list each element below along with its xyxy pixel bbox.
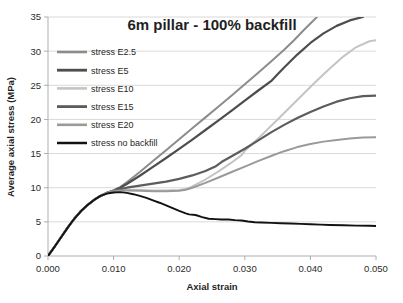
series-line [48,17,317,256]
y-tick-label: 5 [36,216,41,227]
x-tick-label: 0.050 [364,263,388,274]
x-tick-label: 0.020 [167,263,191,274]
series-line [48,137,376,256]
legend-label: stress E5 [91,66,129,76]
x-tick-label: 0.000 [36,263,60,274]
y-tick-label: 35 [30,11,41,22]
y-axis-title: Average axial stress (MPa) [5,77,16,197]
y-tick-label: 20 [30,114,41,125]
y-tick-label: 25 [30,80,41,91]
y-tick-label: 0 [36,250,41,261]
legend-label: stress E2.5 [91,47,136,57]
series-line [48,192,376,256]
y-tick-label: 15 [30,148,41,159]
legend-label: stress no backfill [91,138,158,148]
legend-label: stress E15 [91,102,134,112]
chart-title: 6m pillar - 100% backfill [127,16,296,33]
legend-label: stress E10 [91,84,134,94]
y-tick-label: 10 [30,182,41,193]
x-tick-label: 0.010 [102,263,126,274]
legend-label: stress E20 [91,120,134,130]
legend: stress E2.5stress E5stress E10stress E15… [57,47,158,148]
x-axis-title: Axial strain [186,281,237,292]
x-tick-label: 0.030 [233,263,257,274]
stress-strain-chart: 051015202530350.0000.0100.0200.0300.0400… [0,0,403,303]
y-tick-label: 30 [30,46,41,57]
x-tick-label: 0.040 [299,263,323,274]
chart-container: 051015202530350.0000.0100.0200.0300.0400… [0,0,403,303]
